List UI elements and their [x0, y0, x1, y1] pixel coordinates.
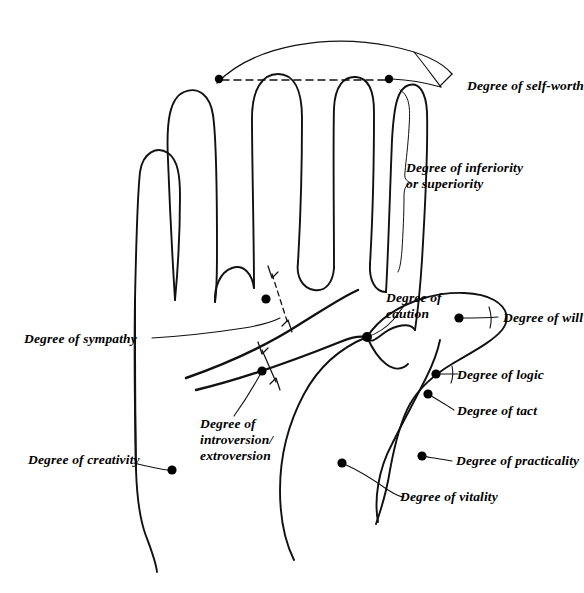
finger-valley-right: [370, 264, 386, 292]
finger-valley-left: [215, 267, 254, 302]
label-practicality: Degree of practicality: [456, 453, 579, 469]
vitality-leader: [342, 463, 404, 497]
creativity-dot: [167, 465, 176, 474]
finger-far-left: [135, 150, 180, 470]
self-worth-dot-left: [215, 75, 223, 83]
finger-valley-middle: [298, 262, 334, 290]
finger-right: [334, 77, 374, 268]
solid-double-arrow: [234, 342, 280, 416]
heart-line: [186, 290, 358, 378]
label-tact: Degree of tact: [457, 403, 537, 419]
label-sympathy: Degree of sympathy: [24, 331, 137, 347]
self-worth-arc: [217, 41, 452, 83]
life-line: [280, 337, 367, 560]
label-logic: Degree of logic: [457, 367, 544, 383]
palmistry-diagram: Degree of self-worth Degree of inferiori…: [0, 0, 584, 593]
finger-middle: [252, 74, 302, 288]
label-caution: Degree of caution: [386, 290, 442, 322]
palm-left-edge: [136, 470, 157, 572]
thumb-inner-edge: [367, 337, 408, 369]
label-introversion-extroversion: Degree of introversion/ extroversion: [200, 416, 273, 464]
practicality-leader: [422, 456, 452, 461]
tact-leader: [428, 394, 454, 410]
will-leader: [459, 317, 498, 318]
hand-left-lower-edge: [135, 300, 136, 470]
label-vitality: Degree of vitality: [400, 489, 498, 505]
finger-left: [168, 90, 217, 302]
label-inferiority-superiority: Degree of inferiority or superiority: [406, 160, 523, 192]
dashed-double-arrow: [261, 266, 292, 332]
label-creativity: Degree of creativity: [28, 452, 140, 468]
label-self-worth: Degree of self-worth: [467, 78, 584, 94]
self-worth-leader-arc: [440, 74, 452, 86]
sympathy-leader: [152, 318, 280, 338]
label-will: Degree of will: [503, 310, 583, 326]
dashed-arrow-dot: [261, 294, 270, 303]
